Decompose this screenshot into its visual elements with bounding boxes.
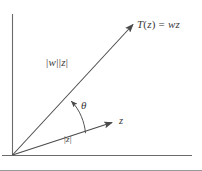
tz-label-equals: =	[156, 18, 168, 30]
absz-bar-2: |	[70, 134, 72, 144]
wz-w: w	[49, 56, 57, 68]
tz-label-z-factor: z	[175, 18, 179, 30]
rotation-angle-label: θ	[81, 100, 86, 111]
transformed-vector-label: T(z) = wz	[137, 19, 180, 30]
complex-multiplication-figure: T(z) = wz |w||z| θ z |z|	[0, 0, 202, 171]
original-vector-label: z	[119, 116, 123, 127]
transformed-magnitude-label: |w||z|	[46, 57, 68, 68]
wz-bar-4: |	[66, 56, 69, 68]
original-magnitude-label: |z|	[64, 135, 72, 144]
